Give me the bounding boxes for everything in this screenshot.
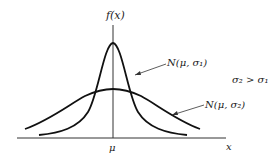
x-axis-label: x xyxy=(226,141,232,152)
normal-curves-diagram: f(x) x μ N(μ, σ₁) N(μ, σ₂) σ₂ > σ₁ xyxy=(0,0,280,160)
sigma-relation-note: σ₂ > σ₁ xyxy=(232,74,268,85)
arrowhead-icon xyxy=(135,71,141,75)
curve-wide-label: N(μ, σ₂) xyxy=(204,99,245,110)
curve-narrow-label: N(μ, σ₁) xyxy=(166,57,207,68)
y-axis-label: f(x) xyxy=(105,9,125,22)
mu-tick-label: μ xyxy=(109,142,116,153)
arrowhead-icon xyxy=(172,111,178,115)
